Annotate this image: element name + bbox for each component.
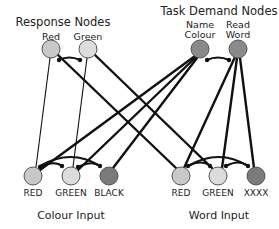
word-input-node-red (172, 167, 190, 185)
colour-input-node-green (62, 167, 80, 185)
word-input-node-green (209, 167, 227, 185)
junction-dots (38, 58, 250, 169)
word-input-red-label: RED (172, 188, 191, 198)
word-input-xxxx-label: XXXX (244, 188, 269, 198)
inhibition-arcs (40, 58, 248, 168)
colour-input-node-red (24, 167, 42, 185)
word-input-title: Word Input (189, 209, 250, 222)
task-node-read-word (229, 40, 247, 58)
colour-input-title: Colour Input (37, 209, 105, 222)
response-node-green (79, 40, 97, 58)
task-node-name-colour (191, 40, 209, 58)
response-nodes-title: Response Nodes (16, 15, 111, 29)
thick-edges (40, 55, 254, 170)
word-input-node-xxxx (247, 167, 265, 185)
response-node-red (42, 40, 60, 58)
colour-input-red-label: RED (24, 188, 43, 198)
colour-input-green-label: GREEN (55, 188, 86, 198)
word-input-green-label: GREEN (202, 188, 233, 198)
task-name-colour-label-2: Colour (185, 29, 216, 40)
task-demand-nodes-title: Task Demand Nodes (160, 4, 278, 18)
stroop-network-diagram: Response Nodes Task Demand Nodes Red Gre… (0, 0, 279, 229)
colour-input-node-black (100, 167, 118, 185)
task-read-word-label-2: Word (226, 29, 250, 40)
colour-input-black-label: BLACK (94, 188, 125, 198)
